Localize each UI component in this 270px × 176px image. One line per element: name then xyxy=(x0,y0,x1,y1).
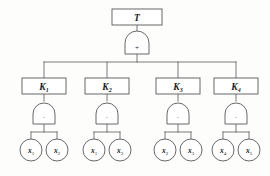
and-gate-symbol-1: · xyxy=(43,114,45,122)
cut-set-label-2-sub: 2 xyxy=(108,87,112,93)
fault-tree-diagram: T + K1 · x1 x2 K2 · x1 x3 xyxy=(0,0,270,176)
and-gate-symbol-4: · xyxy=(235,114,237,122)
or-gate-symbol: + xyxy=(135,44,139,52)
or-gate-top[interactable]: + xyxy=(125,31,149,54)
and-gate-symbol-2: · xyxy=(106,114,108,122)
cut-set-label-1-sub: 1 xyxy=(46,87,49,93)
cut-set-label-4-sub: 4 xyxy=(237,87,241,93)
cut-set-label-3-sub: 3 xyxy=(179,87,183,93)
top-event-node[interactable]: T xyxy=(112,9,162,25)
and-gate-symbol-3: · xyxy=(177,114,179,122)
